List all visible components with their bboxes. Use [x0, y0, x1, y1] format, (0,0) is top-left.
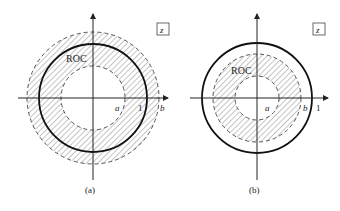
label-one: 1 — [316, 103, 321, 113]
panel-b: ROC a b 1 z (b) — [0, 0, 340, 211]
label-b: b — [303, 103, 308, 113]
caption-b: (b) — [249, 185, 260, 195]
roc-region-hatch — [0, 0, 340, 211]
roc-label: ROC — [231, 65, 252, 76]
plane-label: z — [315, 25, 320, 35]
label-a: a — [265, 103, 270, 113]
roc-diagram: ROC a 1 b z (a) ROC a b 1 z (b) — [0, 0, 340, 211]
